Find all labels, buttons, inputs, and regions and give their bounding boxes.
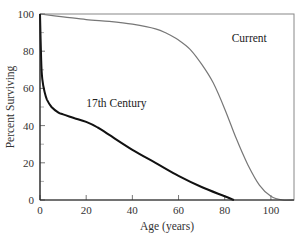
annotation-layer: Current17th Century [86,32,267,110]
y-tick-label: 0 [29,194,35,206]
x-axis-label: Age (years) [140,220,194,233]
y-tick-label: 60 [23,82,35,94]
x-tick-label: 80 [219,204,231,216]
x-tick-label: 20 [81,204,93,216]
y-tick-label: 80 [23,45,35,57]
x-tick-label: 0 [37,204,43,216]
series-annotation: 17th Century [86,97,147,110]
y-tick-label: 100 [18,8,35,20]
y-tick-label: 20 [23,157,35,169]
x-axis-ticks: 020406080100 [37,195,279,216]
survival-curve-chart: 020406080100 020406080100 Current17th Ce… [0,0,300,239]
x-tick-label: 40 [127,204,139,216]
y-tick-label: 40 [23,120,35,132]
y-axis-label: Percent Surviving [4,65,17,148]
x-tick-label: 60 [173,204,185,216]
series-annotation: Current [232,32,268,44]
x-tick-label: 100 [263,204,280,216]
